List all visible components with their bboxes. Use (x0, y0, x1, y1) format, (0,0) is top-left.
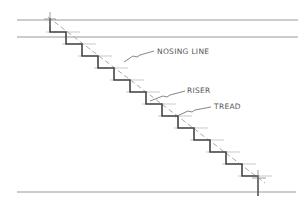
tread-leader (175, 107, 211, 117)
riser-leader (150, 91, 185, 101)
nosing-line-label: NOSING LINE (157, 47, 209, 56)
riser-label: RISER (187, 86, 211, 95)
nosing-leader (124, 51, 154, 62)
nosing-line (48, 17, 265, 183)
tread-label: TREAD (213, 102, 241, 111)
top-crosshair-icon (44, 12, 56, 26)
stair-diagram: NOSING LINE RISER TREAD (0, 0, 308, 203)
